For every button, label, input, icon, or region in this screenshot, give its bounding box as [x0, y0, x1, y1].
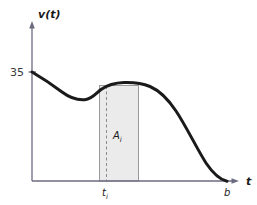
region-label-subscript: i [120, 136, 122, 144]
region-label-base: A [112, 130, 120, 141]
figure-canvas: v(t) t 35 ti b Ai [0, 0, 257, 205]
y-axis-arrowhead [29, 21, 35, 29]
x-axis-arrowhead [232, 178, 240, 183]
x-tick-label-t-sub-i: ti [102, 187, 108, 201]
x-tick-label-b: b [224, 187, 230, 198]
x-tick-label-t-sub-i-subscript: i [106, 193, 108, 201]
x-axis-label: t [246, 175, 252, 188]
y-tick-label-35: 35 [10, 66, 24, 79]
y-axis-label: v(t) [38, 8, 60, 21]
velocity-curve-figure: v(t) t 35 ti b Ai [0, 0, 257, 205]
